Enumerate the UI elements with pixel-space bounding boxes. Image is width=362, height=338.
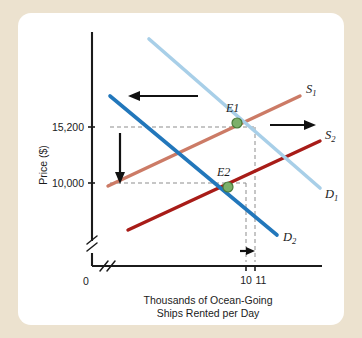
guide-lines [110,127,255,262]
demand-shift-left-arrow [128,91,198,101]
curve-label-D1: D1 [324,187,338,203]
equilibrium-dot-E2 [223,182,233,192]
x-axis-title-line1: Thousands of Ocean-Going [144,294,273,306]
equilibrium-label-E1: E1 [225,101,239,115]
equilibrium-dot-E1 [232,118,242,128]
curve-label-S1: S1 [306,82,317,98]
y-tick-label-15200: 15,200 [52,121,84,133]
x-tick-label-11: 11 [256,274,267,286]
supply-shift-right-arrow [270,120,316,130]
x-tick-label-10: 10 [240,274,252,286]
y-tick-label-10000: 10,000 [52,177,84,189]
y-axis-title: Price ($) [37,145,49,185]
origin-label: 0 [83,275,89,287]
price-decrease-arrow [115,133,125,184]
curve-label-S2: S2 [325,128,336,144]
x-axis-title-line2: Ships Rented per Day [157,307,260,319]
supply-demand-chart: S1 S2 D1 D2 E1 E2 15,200 10,000 10 11 0 … [18,13,344,325]
quantity-change-arrow [240,247,255,255]
curve-label-D2: D2 [282,230,297,246]
curves [108,39,320,235]
equilibrium-label-E2: E2 [216,165,230,179]
figure-card: S1 S2 D1 D2 E1 E2 15,200 10,000 10 11 0 … [18,13,344,325]
